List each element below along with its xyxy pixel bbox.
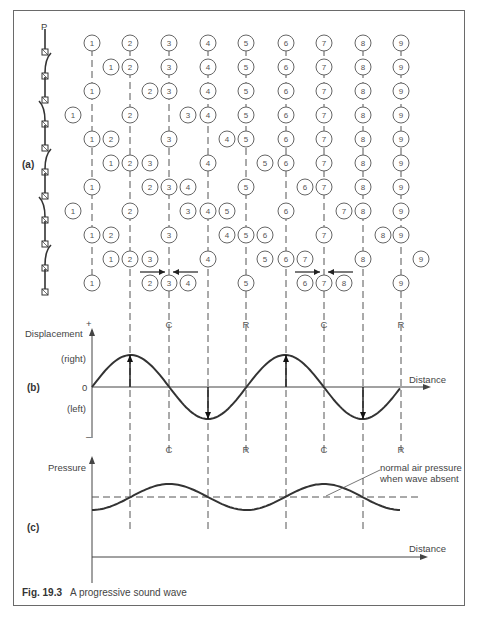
particle-number: 9 [399,159,404,168]
particle-number: 7 [322,279,327,288]
particle-number: 4 [225,135,230,144]
particle-number: 3 [167,63,172,72]
particle-number: 6 [284,111,289,120]
particle-number: 4 [186,183,191,192]
marker-label-bottom: C [321,444,328,455]
distance-label-c: Distance [409,543,446,554]
particle-number: 3 [167,279,172,288]
particle-rows: 1234567891234567891234567891234567891234… [65,35,429,291]
marker-label-top: R [243,319,250,330]
particle-number: 8 [342,279,347,288]
particle-number: 3 [148,159,153,168]
pendulum-icons [39,29,51,295]
particle-number: 6 [284,87,289,96]
particle-number: 4 [206,111,211,120]
particle-number: 5 [244,135,249,144]
sound-wave-diagram: 1234567891234567891234567891234567891234… [0,0,488,624]
particle-number: 1 [90,279,95,288]
particle-number: 3 [186,111,191,120]
particle-number: 8 [361,111,366,120]
particle-number: 8 [361,183,366,192]
particle-number: 2 [148,183,153,192]
particle-number: 1 [109,63,114,72]
particle-number: 6 [284,207,289,216]
particle-number: 8 [361,39,366,48]
marker-label-bottom: R [398,444,405,455]
figure-caption: Fig. 19.3A progressive sound wave [22,587,187,598]
particle-number: 2 [109,231,114,240]
particle-number: 3 [167,135,172,144]
marker-label-top: C [166,319,173,330]
particle-number: 5 [244,279,249,288]
pendulum-string-icon [39,197,45,217]
particle-number: 9 [399,111,404,120]
particle-number: 8 [361,255,366,264]
particle-number: 5 [244,183,249,192]
particle-number: 2 [128,207,133,216]
particle-number: 5 [244,87,249,96]
pendulum-p-label: P [41,21,47,32]
arrow-head-icon [314,269,320,275]
pressure-axis-label: Pressure [48,462,86,473]
particle-number: 9 [399,183,404,192]
particle-number: 4 [206,63,211,72]
arrow-head-icon [328,269,334,275]
particle-number: 6 [284,135,289,144]
particle-number: 4 [186,279,191,288]
displacement-axis-label: Displacement [25,328,83,339]
particle-number: 3 [148,255,153,264]
particle-number: 5 [263,159,268,168]
particle-number: 7 [322,159,327,168]
particle-number: 3 [167,183,172,192]
particle-number: 2 [128,63,133,72]
particle-number: 5 [244,39,249,48]
particle-number: 2 [128,39,133,48]
particle-number: 9 [399,231,404,240]
particle-number: 2 [128,111,133,120]
panel-a-label: (a) [22,159,34,170]
particle-number: 8 [381,231,386,240]
particle-number: 2 [148,279,153,288]
pressure-axis-arrow-icon [89,456,95,464]
y-axis-arrow-icon [89,328,95,336]
particle-number: 1 [109,159,114,168]
caption-figure-number: Fig. 19.3 [22,587,62,598]
particle-number: 4 [206,39,211,48]
particle-number: 1 [71,111,76,120]
marker-label-bottom: C [166,444,173,455]
arrow-head-icon [173,269,179,275]
normal-pressure-annotation-1: normal air pressure [380,462,462,473]
particle-number: 7 [303,255,308,264]
pendulum-string-icon [45,245,51,265]
displacement-plus-sign: + [86,318,92,329]
panel-c-label: (c) [27,522,39,533]
particle-number: 4 [206,87,211,96]
particle-number: 6 [284,159,289,168]
particle-number: 7 [322,135,327,144]
particle-number: 9 [399,207,404,216]
particle-number: 2 [128,159,133,168]
particle-number: 5 [244,231,249,240]
particle-number: 7 [322,111,327,120]
particle-number: 2 [109,135,114,144]
marker-label-top: C [321,319,328,330]
displacement-minus-sign: – [86,431,92,442]
particle-number: 1 [90,39,95,48]
particle-number: 6 [284,255,289,264]
particle-number: 3 [186,207,191,216]
particle-number: 9 [399,63,404,72]
particle-number: 1 [90,231,95,240]
particle-number: 9 [399,87,404,96]
particle-number: 4 [206,255,211,264]
particle-number: 5 [263,255,268,264]
particle-number: 6 [303,279,308,288]
particle-number: 1 [109,255,114,264]
arrow-head-icon [159,269,165,275]
particle-number: 7 [342,207,347,216]
marker-label-bottom: R [243,444,250,455]
pendulum-string-icon [45,53,51,73]
particle-number: 6 [303,183,308,192]
particle-number: 3 [167,87,172,96]
particle-number: 6 [284,63,289,72]
particle-number: 6 [263,231,268,240]
